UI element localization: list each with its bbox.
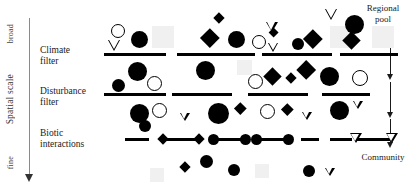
- triangle-inner: [181, 113, 187, 119]
- triangle-inner: [326, 168, 332, 174]
- row4-filled-diamond-0: [179, 161, 190, 172]
- triangle-inner: [326, 9, 336, 18]
- link-cap-open-triangle: [386, 133, 398, 143]
- filter-bar-climate-0: [104, 53, 166, 56]
- row1-open-triangle-9: [268, 43, 278, 52]
- row4-filled-circle-1: [200, 155, 213, 168]
- filter-bar-disturbance-3: [322, 93, 370, 96]
- row1-filled-diamond-12: [303, 29, 322, 48]
- row3-filled-diamond-5: [234, 102, 246, 114]
- link-cap-filled-diamond: [157, 133, 168, 144]
- row3-open-triangle-8: [302, 112, 312, 120]
- triangle-inner: [351, 134, 359, 141]
- row2-open-circle-5: [248, 74, 263, 89]
- row1-filled-diamond-4: [213, 12, 224, 23]
- link-cap-filled-circle: [208, 134, 219, 145]
- link-cap-filled-circle: [283, 134, 294, 145]
- row3-open-triangle-3: [180, 113, 190, 121]
- filter-bar-climate-1: [177, 53, 255, 56]
- triangle-inner: [269, 43, 277, 50]
- row1-filled-circle-15: [345, 15, 364, 34]
- filter-bar-climate-3: [340, 53, 398, 56]
- row2-filled-circle-1: [112, 79, 125, 92]
- row2-grey-square-4: [237, 60, 252, 75]
- row4-filled-circle-3: [303, 165, 315, 177]
- row2-filled-diamond-6: [263, 67, 281, 85]
- row3-open-triangle-10: [353, 101, 363, 109]
- row3-open-circle-6: [260, 104, 275, 119]
- filter-bar-disturbance-0: [104, 93, 166, 96]
- link-bar: [125, 138, 149, 141]
- biotic-link-0: [125, 133, 149, 145]
- row2-filled-diamond-8: [296, 60, 316, 80]
- row4-grey-square-6: [150, 168, 164, 182]
- link-cap-filled-circle: [240, 134, 251, 145]
- row1-open-triangle-14: [325, 9, 337, 20]
- row1-open-triangle-1: [108, 40, 120, 51]
- row2-filled-circle-0: [128, 62, 147, 81]
- triangle-inner: [354, 101, 360, 107]
- row3-open-circle-1: [152, 103, 167, 118]
- assembly-filter-diagram: broad Spatial scale fine Climate filter …: [0, 0, 418, 196]
- biotic-link-2: [213, 133, 245, 145]
- row3-filled-circle-2: [139, 120, 151, 132]
- row1-open-circle-0: [111, 24, 125, 38]
- row2-filled-circle-3: [196, 61, 215, 80]
- row1-filled-diamond-5: [200, 28, 219, 47]
- link-cap-filled-diamond: [193, 133, 204, 144]
- biotic-link-3: [256, 133, 288, 145]
- triangle-inner: [109, 40, 119, 49]
- row4-grey-square-5: [255, 164, 269, 178]
- row1-grey-square-3: [152, 26, 174, 48]
- row2-open-circle-2: [147, 76, 162, 91]
- triangle-inner: [267, 22, 275, 30]
- biotic-link-1: [163, 133, 199, 145]
- row2-open-circle-10: [352, 70, 368, 86]
- link-bar: [301, 138, 319, 141]
- row1-filled-circle-11: [292, 38, 304, 50]
- filter-bar-disturbance-1: [172, 93, 232, 96]
- row1-grey-square-17: [372, 26, 394, 48]
- triangle-inner: [303, 112, 309, 118]
- biotic-link-4: [301, 133, 319, 145]
- filter-bar-disturbance-2: [248, 93, 308, 96]
- link-cap-open-triangle: [350, 133, 362, 143]
- symbol-canvas: [0, 0, 418, 196]
- link-cap-filled-circle: [251, 134, 262, 145]
- row3-filled-circle-4: [208, 103, 229, 124]
- row4-filled-circle-2: [228, 164, 240, 176]
- filter-bar-climate-2: [262, 53, 332, 56]
- triangle-inner: [387, 134, 395, 141]
- row3-filled-diamond-7: [281, 103, 293, 115]
- row1-filled-circle-2: [131, 31, 148, 48]
- biotic-link-6: [355, 133, 391, 145]
- row2-filled-circle-9: [320, 67, 339, 86]
- row2-filled-diamond-7: [285, 72, 296, 83]
- row1-filled-circle-6: [228, 31, 245, 48]
- row1-open-triangle-10: [266, 22, 278, 32]
- row1-open-circle-7: [252, 35, 266, 49]
- row4-open-triangle-4: [325, 168, 335, 176]
- row3-filled-circle-9: [330, 101, 349, 120]
